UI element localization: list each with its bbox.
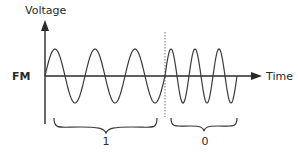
fm-label: FM: [12, 70, 30, 83]
time-label: Time: [265, 70, 293, 83]
voltage-axis-arrow-icon: [41, 20, 49, 31]
bit-0-label: 0: [202, 135, 209, 148]
bit-1-label: 1: [103, 135, 110, 148]
fm-diagram: Voltage Time FM 1 0: [0, 0, 298, 155]
fm-diagram-canvas: Voltage Time FM 1 0: [0, 0, 298, 155]
brace-bit-1: [54, 118, 157, 133]
brace-bit-0: [171, 118, 237, 131]
voltage-label: Voltage: [25, 4, 66, 17]
time-axis-arrow-icon: [251, 72, 262, 80]
